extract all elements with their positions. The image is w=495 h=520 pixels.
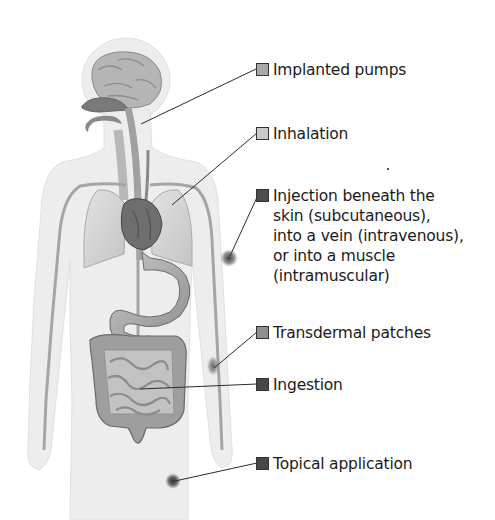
label-text: Injection beneath the skin (subcutaneous… bbox=[273, 186, 464, 286]
label-implanted-pumps: Implanted pumps bbox=[256, 60, 406, 80]
label-text: Transdermal patches bbox=[273, 323, 431, 343]
label-text: Ingestion bbox=[273, 375, 343, 395]
transdermal-patch-marker bbox=[207, 356, 219, 376]
label-injection: Injection beneath the skin (subcutaneous… bbox=[256, 186, 464, 286]
label-text: Inhalation bbox=[273, 124, 348, 144]
swatch-icon bbox=[256, 326, 269, 339]
swatch-icon bbox=[256, 127, 269, 140]
injection-site-marker bbox=[220, 249, 238, 267]
swatch-icon bbox=[256, 457, 269, 470]
label-topical-application: Topical application bbox=[256, 454, 412, 474]
label-text: Topical application bbox=[273, 454, 412, 474]
label-transdermal-patches: Transdermal patches bbox=[256, 323, 431, 343]
label-ingestion: Ingestion bbox=[256, 375, 343, 395]
stray-speck bbox=[387, 168, 389, 170]
swatch-icon bbox=[256, 189, 269, 202]
label-inhalation: Inhalation bbox=[256, 124, 348, 144]
label-text: Implanted pumps bbox=[273, 60, 406, 80]
swatch-icon bbox=[256, 378, 269, 391]
topical-site-marker bbox=[165, 473, 181, 489]
swatch-icon bbox=[256, 63, 269, 76]
